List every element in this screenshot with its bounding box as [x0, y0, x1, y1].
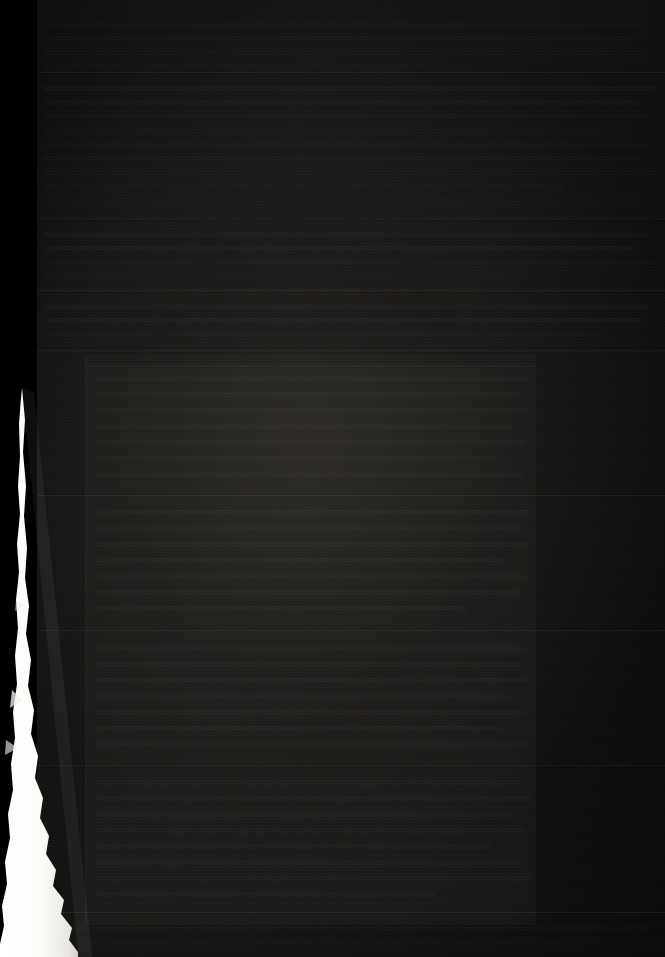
ghost-text-row [44, 50, 648, 55]
scanned-document-page [0, 0, 665, 957]
ghost-text-row [44, 86, 654, 91]
ghost-text-row [44, 170, 656, 175]
column-edge-right [535, 355, 536, 925]
rule-3 [37, 290, 665, 291]
ghost-text-row [44, 926, 648, 931]
ghost-text-row [44, 274, 510, 279]
ghost-text-row [44, 156, 638, 161]
ghost-text-row [44, 128, 616, 133]
ghost-text-row [44, 304, 648, 309]
left-void-margin [0, 0, 37, 957]
ghost-text-row [44, 940, 604, 945]
ghost-text-row [44, 198, 644, 203]
ghost-text-row [44, 318, 642, 323]
ghost-text-row [44, 232, 650, 237]
rule-7 [37, 765, 665, 766]
ghost-text-row [44, 260, 658, 265]
rule-2 [37, 218, 665, 219]
rule-5 [37, 495, 665, 496]
rule-6 [37, 630, 665, 631]
ghost-text-row [44, 64, 474, 69]
ghost-text-row [44, 142, 646, 147]
column-edge-left [85, 355, 86, 925]
rule-8 [37, 912, 665, 913]
ghost-text-row [44, 332, 604, 337]
ghost-text-row [44, 184, 564, 189]
rule-4 [37, 350, 665, 351]
ghost-text-row [44, 100, 640, 105]
rule-1 [37, 72, 665, 73]
ghost-text-row [44, 114, 652, 119]
content-block [85, 365, 535, 925]
ghost-text-row [44, 22, 644, 27]
ghost-text-row [44, 246, 634, 251]
ghost-text-row [44, 36, 632, 41]
